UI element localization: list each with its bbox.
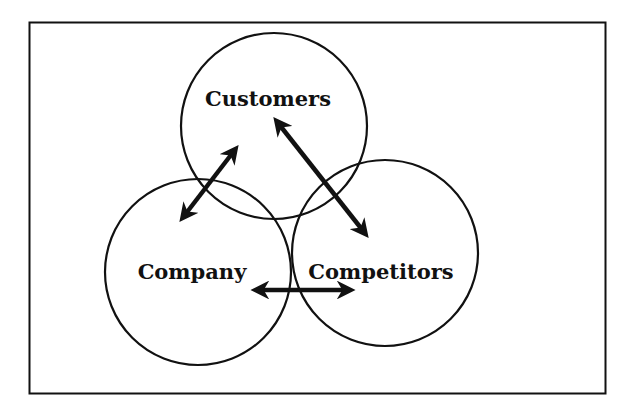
customers-circle (181, 33, 367, 219)
competitors-label: Competitors (308, 259, 453, 284)
customers-label: Customers (205, 86, 331, 111)
company-label: Company (138, 259, 247, 284)
three-cs-diagram: Customers Company Competitors (0, 0, 634, 411)
competitors-circle (292, 160, 478, 346)
